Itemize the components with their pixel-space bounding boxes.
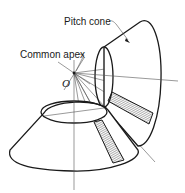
pitch-cone-label: Pitch cone	[64, 16, 111, 27]
bevel-gear-pitch-cones-diagram: Pitch cone Common apex O	[0, 0, 185, 193]
apex-o-label: O	[62, 77, 70, 89]
apex-point	[73, 72, 76, 75]
common-apex-label: Common apex	[20, 49, 85, 60]
